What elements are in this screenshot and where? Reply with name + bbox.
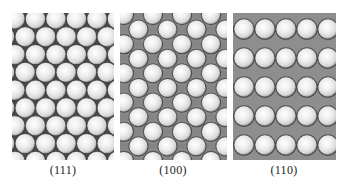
- fcc-110-lattice-image: [233, 13, 336, 160]
- label-110: (110): [232, 163, 336, 178]
- panel-110: [233, 13, 336, 160]
- fcc-111-lattice-image: [12, 13, 114, 160]
- panel-100: [120, 13, 227, 160]
- fcc-100-lattice-image: [120, 13, 227, 160]
- label-100: (100): [121, 163, 225, 178]
- panel-111: [12, 13, 114, 160]
- label-111: (111): [11, 163, 115, 178]
